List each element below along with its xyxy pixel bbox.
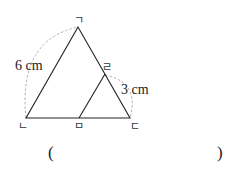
- answer-close-paren: ): [217, 144, 223, 161]
- triangle-figure: [0, 0, 235, 171]
- vertex-label-bottom-left: ㄴ: [18, 121, 28, 132]
- measurement-small-side: 3 cm: [121, 83, 149, 97]
- vertex-label-bottom-right: ㄷ: [130, 121, 140, 132]
- vertex-label-top: ㄱ: [74, 15, 84, 26]
- inner-segment: [79, 74, 105, 118]
- vertex-label-bottom-mid: ㅁ: [74, 121, 84, 132]
- vertex-label-right-mid: ㄹ: [102, 62, 112, 73]
- measurement-left-side: 6 cm: [15, 59, 43, 73]
- answer-open-paren: (: [48, 144, 54, 161]
